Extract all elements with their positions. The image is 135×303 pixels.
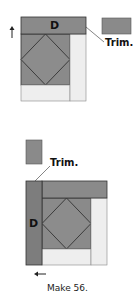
trim-piece-2 [26, 140, 42, 164]
trim-piece-1 [102, 18, 131, 34]
trim-label-step2: Trim. [50, 157, 78, 168]
light-right-strip [70, 34, 86, 101]
trim-label-step1: Trim. [105, 37, 133, 48]
trim-leader-line-2 [34, 166, 50, 182]
caption: Make 56. [0, 283, 135, 293]
d-label-step1: D [50, 19, 59, 32]
step2-block [26, 181, 107, 265]
d-label-step2: D [29, 217, 38, 230]
trim-leader-line-1 [86, 27, 104, 42]
light-bottom-strip [42, 249, 91, 265]
left-arrow-icon [34, 272, 46, 277]
d-strip-top [42, 181, 107, 198]
light-right-strip [91, 198, 107, 265]
light-bottom-strip [21, 85, 70, 101]
up-arrow-icon [10, 26, 15, 38]
